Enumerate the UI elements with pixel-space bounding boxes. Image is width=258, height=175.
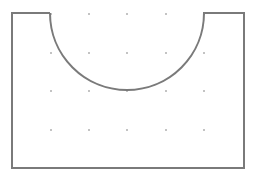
grid-dot bbox=[88, 52, 90, 54]
grid-dot bbox=[88, 90, 90, 92]
notched-rectangle-outline bbox=[12, 13, 244, 168]
diagram-canvas bbox=[0, 0, 258, 175]
grid-dot bbox=[126, 129, 128, 131]
grid-dot bbox=[165, 52, 167, 54]
grid-dot bbox=[126, 13, 128, 15]
grid-dot bbox=[165, 129, 167, 131]
grid-dot bbox=[88, 13, 90, 15]
grid-dots bbox=[50, 13, 205, 131]
grid-dot bbox=[50, 90, 52, 92]
grid-dot bbox=[203, 129, 205, 131]
grid-dot bbox=[165, 13, 167, 15]
grid-dot bbox=[50, 52, 52, 54]
grid-dot bbox=[165, 90, 167, 92]
grid-dot bbox=[203, 90, 205, 92]
grid-dot bbox=[88, 129, 90, 131]
grid-dot bbox=[203, 52, 205, 54]
grid-dot bbox=[50, 129, 52, 131]
grid-dot bbox=[126, 52, 128, 54]
